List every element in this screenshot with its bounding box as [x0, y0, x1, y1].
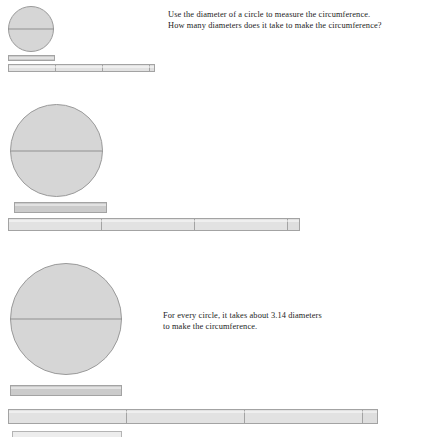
- answer-statement-line-2: to make the circumference.: [163, 322, 322, 333]
- figure-medium-segment-remainder-0.14: [288, 219, 300, 230]
- figure-small-segment-diameter-2: [56, 65, 103, 71]
- answer-statement-line-1: For every circle, it takes about 3.14 di…: [163, 311, 322, 322]
- figure-medium-segment-diameter-3: [195, 219, 288, 230]
- figure-large-segment-diameter-1: [9, 410, 127, 423]
- figure-large-segment-diameter-2: [127, 410, 245, 423]
- header-question-line-1: Use the diameter of a circle to measure …: [168, 10, 382, 21]
- figure-large-segment-diameter-3: [245, 410, 363, 423]
- figure-medium-segment-diameter-1: [9, 219, 102, 230]
- figure-large-segment-remainder-0.14: [363, 410, 378, 423]
- header-question: Use the diameter of a circle to measure …: [168, 10, 382, 31]
- figure-small-circumference-bar: [8, 64, 155, 72]
- figure-medium-diameter-line: [10, 150, 103, 151]
- figure-small-circle: [8, 6, 54, 52]
- figure-medium-segment-diameter-2: [102, 219, 195, 230]
- clipped-bottom-bar: [12, 431, 122, 437]
- figure-small-diameter-line: [8, 29, 54, 30]
- figure-small-segment-diameter-3: [103, 65, 150, 71]
- figure-medium-circumference-bar: [8, 218, 300, 231]
- figure-small-diameter-bar: [8, 55, 55, 61]
- header-question-line-2: How many diameters does it take to make …: [168, 21, 382, 32]
- figure-large-diameter-bar: [10, 385, 122, 396]
- figure-medium-circle: [10, 104, 103, 197]
- answer-statement: For every circle, it takes about 3.14 di…: [163, 311, 322, 332]
- figure-small-segment-remainder-0.14: [150, 65, 155, 71]
- figure-small-segment-diameter-1: [9, 65, 56, 71]
- figure-large-diameter-line: [10, 319, 122, 320]
- figure-large-circle: [10, 263, 122, 375]
- figure-medium-diameter-bar: [14, 202, 107, 213]
- figure-large-circumference-bar: [8, 409, 378, 424]
